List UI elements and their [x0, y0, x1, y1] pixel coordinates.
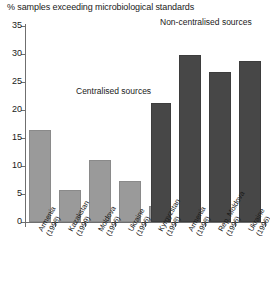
y-tick-label-0: 0	[0, 217, 22, 226]
y-tick-label-25: 25	[0, 77, 22, 86]
y-tick-label-10: 10	[0, 161, 22, 170]
y-tick-label-15: 15	[0, 133, 22, 142]
y-tick-label-30: 30	[0, 49, 22, 58]
annotation-centralised-sources: Centralised sources	[76, 86, 151, 96]
y-tick-label-5: 5	[0, 189, 22, 198]
bar-armenia-1998-non-centralised	[179, 55, 201, 222]
x-tick-0	[25, 223, 26, 227]
annotation-non-centralised-sources: Non-centralised sources	[160, 17, 252, 27]
bar-rep-moldova-1996-non-centralised	[209, 72, 231, 222]
y-tick-label-35: 35	[0, 21, 22, 30]
y-axis-line	[25, 24, 26, 223]
bar-kyrgyzstan-1998-non-centralised	[151, 103, 171, 222]
chart-title: % samples exceeding microbiological stan…	[7, 2, 194, 12]
y-tick-label-20: 20	[0, 105, 22, 114]
bar-chart: % samples exceeding microbiological stan…	[0, 0, 270, 291]
